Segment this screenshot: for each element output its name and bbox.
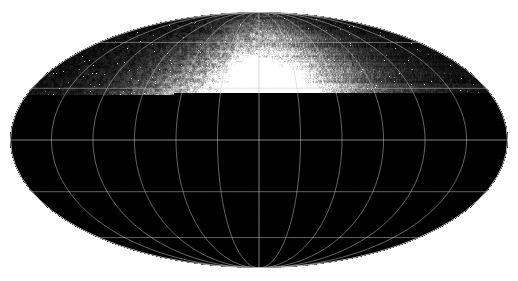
all-sky-map-canvas	[0, 0, 518, 281]
sky-map-figure	[0, 0, 518, 281]
